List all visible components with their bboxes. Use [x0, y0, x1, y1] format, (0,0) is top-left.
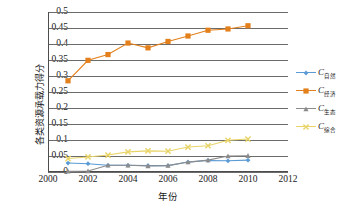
legend-marker-triangle-icon [296, 103, 316, 115]
data-point-marker [65, 78, 70, 83]
x-tick-label: 2008 [188, 175, 228, 185]
data-point-marker [86, 161, 91, 166]
legend-item[interactable]: C经济 [296, 82, 360, 100]
chart-container: 各类资源承载力得分 00.050.10.150.20.250.30.350.40… [0, 0, 361, 208]
legend-item[interactable]: C自然 [296, 64, 360, 82]
legend-label: C自然 [316, 67, 336, 80]
legend-marker-diamond-icon [296, 67, 316, 79]
data-point-marker [304, 71, 309, 76]
x-tick-label: 2006 [148, 175, 188, 185]
plot-area [48, 12, 288, 172]
series-layer [48, 12, 288, 172]
data-point-marker [246, 158, 251, 163]
y-axis-title-wrap: 各类资源承载力得分 [0, 0, 16, 208]
legend-swatch [296, 121, 316, 133]
data-point-marker [205, 28, 210, 33]
data-point-marker [303, 124, 308, 129]
x-axis-title: 年份 [48, 189, 288, 203]
legend-swatch [296, 103, 316, 115]
series-line [68, 156, 248, 172]
data-point-marker [303, 106, 308, 111]
x-tick-label: 2004 [108, 175, 148, 185]
x-tick-label: 2010 [228, 175, 268, 185]
data-point-marker [85, 58, 90, 63]
data-point-marker [165, 39, 170, 44]
legend: C自然C经济C生态C综合 [296, 64, 360, 136]
data-point-marker [125, 40, 130, 45]
x-tick-label: 2002 [68, 175, 108, 185]
data-point-marker [185, 33, 190, 38]
data-point-marker [225, 26, 230, 31]
x-tick-label: 2012 [268, 175, 308, 185]
legend-marker-cross-icon [296, 121, 316, 133]
legend-label: C综合 [316, 121, 336, 134]
series-diamond [66, 158, 251, 168]
series-line [68, 139, 248, 159]
x-tick-label: 2000 [28, 175, 68, 185]
legend-item[interactable]: C生态 [296, 100, 360, 118]
data-point-marker [226, 158, 231, 163]
data-point-marker [105, 52, 110, 57]
legend-item[interactable]: C综合 [296, 118, 360, 136]
gridline [48, 172, 288, 173]
legend-label: C生态 [316, 103, 336, 116]
series-line [68, 160, 248, 165]
data-point-marker [66, 161, 71, 166]
series-line [68, 26, 248, 81]
data-point-marker [303, 88, 308, 93]
data-point-marker [245, 23, 250, 28]
legend-label: C经济 [316, 85, 336, 98]
legend-swatch [296, 67, 316, 79]
data-point-marker [145, 45, 150, 50]
series-square [65, 23, 250, 83]
legend-swatch [296, 85, 316, 97]
legend-marker-square-icon [296, 85, 316, 97]
